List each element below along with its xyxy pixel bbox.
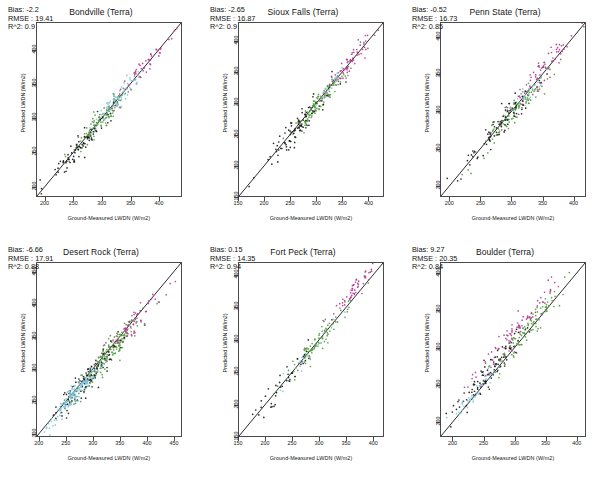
y-tick-label: 150 <box>233 432 239 441</box>
x-tick-label: 450 <box>169 440 178 446</box>
x-tick-label: 350 <box>538 200 547 206</box>
scatter-panel: Boulder (Terra)Bias: 9.27RMSE : 20.35R^2… <box>404 240 606 480</box>
y-tick-label: 250 <box>233 129 239 138</box>
scatter-panel: Fort Peck (Terra)Bias: 0.15RMSE : 14.35R… <box>202 240 404 480</box>
x-tick-label: 250 <box>288 440 297 446</box>
y-tick-label: 250 <box>435 143 441 152</box>
x-tick-label: 300 <box>510 440 519 446</box>
x-tick-label: 350 <box>342 440 351 446</box>
y-tick-label: 350 <box>435 69 441 78</box>
y-tick-label: 250 <box>31 396 37 405</box>
x-tick-label: 200 <box>260 200 269 206</box>
x-tick-label: 350 <box>115 440 124 446</box>
x-tick-label: 400 <box>569 200 578 206</box>
x-tick-label: 250 <box>479 440 488 446</box>
panel-title: Bondville (Terra) <box>0 7 202 17</box>
x-tick-label: 300 <box>312 200 321 206</box>
plot-area <box>238 22 384 197</box>
panel-title: Fort Peck (Terra) <box>202 247 404 257</box>
y-tick-label: 350 <box>233 302 239 311</box>
x-tick-label: 250 <box>61 440 70 446</box>
y-tick-label: 200 <box>31 181 37 190</box>
x-tick-label: 200 <box>448 440 457 446</box>
y-tick-label: 350 <box>435 305 441 314</box>
x-axis-label: Ground-Measured LWDN (W/m2) <box>36 215 182 221</box>
x-tick-labels: 200250300350400 <box>440 200 586 210</box>
scatter-panel: Bondville (Terra)Bias: -2.2RMSE : 19.41R… <box>0 0 202 240</box>
y-axis-label: Predicted LWDN (W/m2) <box>222 28 228 178</box>
x-tick-labels: 200250300350400450 <box>36 440 182 450</box>
x-axis-label: Ground-Measured LWDN (W/m2) <box>440 215 586 221</box>
x-tick-label: 400 <box>155 200 164 206</box>
x-axis-label: Ground-Measured LWDN (W/m2) <box>238 455 384 461</box>
x-tick-label: 150 <box>234 440 243 446</box>
y-tick-label: 400 <box>435 31 441 40</box>
plot-area <box>36 262 182 437</box>
y-axis-label: Predicted LWDN (W/m2) <box>222 268 228 418</box>
y-axis-label: Predicted LWDN (W/m2) <box>20 268 26 418</box>
x-tick-label: 250 <box>286 200 295 206</box>
panel-title: Penn State (Terra) <box>404 7 606 17</box>
y-tick-label: 400 <box>233 35 239 44</box>
x-tick-labels: 200250300350400 <box>440 440 586 450</box>
y-tick-label: 200 <box>233 399 239 408</box>
y-tick-label: 300 <box>31 363 37 372</box>
x-axis-label: Ground-Measured LWDN (W/m2) <box>36 455 182 461</box>
x-tick-label: 400 <box>572 440 581 446</box>
x-tick-label: 350 <box>126 200 135 206</box>
scatter-panel: Sioux Falls (Terra)Bias: -2.65RMSE : 16.… <box>202 0 404 240</box>
plot-area <box>238 262 384 437</box>
x-tick-label: 200 <box>261 440 270 446</box>
panel-title: Sioux Falls (Terra) <box>202 7 404 17</box>
x-tick-label: 200 <box>40 200 49 206</box>
x-tick-label: 400 <box>142 440 151 446</box>
y-tick-label: 300 <box>233 98 239 107</box>
y-tick-label: 450 <box>31 266 37 275</box>
y-tick-label: 200 <box>31 428 37 437</box>
y-tick-label: 250 <box>233 367 239 376</box>
x-tick-label: 400 <box>364 200 373 206</box>
y-tick-label: 250 <box>31 147 37 156</box>
y-axis-label: Predicted LWDN (W/m2) <box>424 28 430 178</box>
x-tick-label: 250 <box>69 200 78 206</box>
y-axis-label: Predicted LWDN (W/m2) <box>20 28 26 178</box>
y-axis-label: Predicted LWDN (W/m2) <box>424 268 430 418</box>
x-tick-label: 300 <box>97 200 106 206</box>
y-tick-label: 150 <box>233 192 239 201</box>
x-tick-labels: 200250300350400 <box>36 200 182 210</box>
panel-grid: Bondville (Terra)Bias: -2.2RMSE : 19.41R… <box>0 0 606 480</box>
plot-area <box>440 262 586 437</box>
panel-title: Desert Rock (Terra) <box>0 247 202 257</box>
y-tick-label: 200 <box>435 180 441 189</box>
figure-caption <box>14 474 574 481</box>
scatter-panel: Desert Rock (Terra)Bias: -6.66RMSE : 17.… <box>0 240 202 480</box>
scatter-panel: Penn State (Terra)Bias: -0.52RMSE : 16.7… <box>404 0 606 240</box>
panel-title: Boulder (Terra) <box>404 247 606 257</box>
y-tick-label: 200 <box>233 160 239 169</box>
x-tick-label: 200 <box>34 440 43 446</box>
plot-area <box>36 22 182 197</box>
y-tick-label: 350 <box>31 331 37 340</box>
y-tick-label: 350 <box>233 67 239 76</box>
y-tick-label: 300 <box>233 334 239 343</box>
y-tick-label: 250 <box>435 379 441 388</box>
y-tick-label: 400 <box>31 44 37 53</box>
x-tick-label: 300 <box>88 440 97 446</box>
x-tick-label: 250 <box>476 200 485 206</box>
x-tick-labels: 150200250300350400 <box>238 200 384 210</box>
y-tick-label: 300 <box>435 106 441 115</box>
y-tick-label: 300 <box>31 113 37 122</box>
x-tick-label: 150 <box>234 200 243 206</box>
y-tick-label: 200 <box>435 417 441 426</box>
x-tick-label: 200 <box>445 200 454 206</box>
x-tick-label: 300 <box>315 440 324 446</box>
y-tick-label: 400 <box>233 270 239 279</box>
x-tick-label: 300 <box>507 200 516 206</box>
x-tick-label: 350 <box>541 440 550 446</box>
y-tick-label: 400 <box>31 299 37 308</box>
y-tick-label: 350 <box>31 78 37 87</box>
x-tick-label: 350 <box>338 200 347 206</box>
scatter-plot-figure: Bondville (Terra)Bias: -2.2RMSE : 19.41R… <box>0 0 606 483</box>
y-tick-label: 400 <box>435 268 441 277</box>
x-axis-label: Ground-Measured LWDN (W/m2) <box>440 455 586 461</box>
